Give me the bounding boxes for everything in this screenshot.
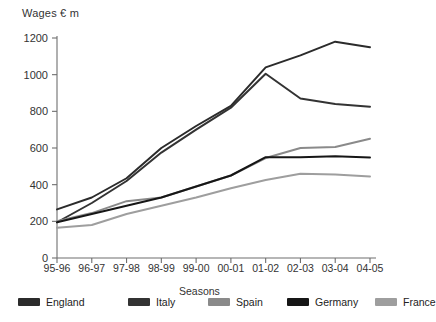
x-axis-tick-label: 04-05 [350, 262, 390, 274]
legend-swatch-italy [128, 298, 150, 306]
y-axis-tick-label: 400 [4, 179, 48, 191]
y-axis-tick-label: 1000 [4, 69, 48, 81]
y-axis-tick-label: 200 [4, 215, 48, 227]
legend-swatch-england [18, 298, 40, 306]
y-axis-tick-label: 600 [4, 142, 48, 154]
series-line-england [57, 42, 370, 210]
legend-item-italy[interactable]: Italy [128, 296, 175, 308]
legend-item-england[interactable]: England [18, 296, 85, 308]
legend-label: Italy [156, 296, 175, 308]
legend-item-spain[interactable]: Spain [208, 296, 263, 308]
chart-legend: EnglandItalySpainGermanyFrance [0, 296, 397, 312]
legend-item-france[interactable]: France [375, 296, 436, 308]
series-line-germany [57, 156, 370, 222]
legend-swatch-germany [287, 298, 309, 306]
legend-label: England [46, 296, 85, 308]
legend-swatch-france [375, 298, 397, 306]
legend-label: Spain [236, 296, 263, 308]
y-axis-tick-label: 800 [4, 105, 48, 117]
legend-item-germany[interactable]: Germany [287, 296, 358, 308]
legend-swatch-spain [208, 298, 230, 306]
y-axis-tick-label: 1200 [4, 32, 48, 44]
legend-label: France [403, 296, 436, 308]
legend-label: Germany [315, 296, 358, 308]
